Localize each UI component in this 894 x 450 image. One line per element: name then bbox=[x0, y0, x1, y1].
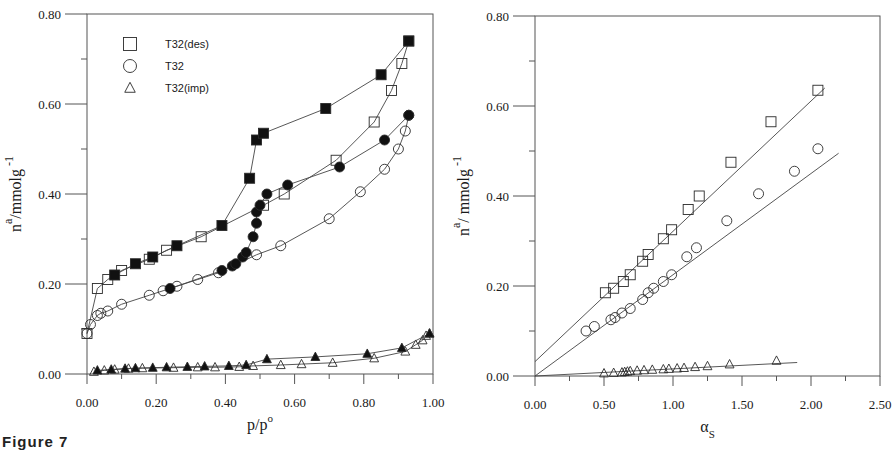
circle-marker bbox=[193, 275, 203, 285]
fit-line bbox=[535, 153, 839, 376]
x-tick-label: 2.50 bbox=[869, 397, 892, 412]
triangle-marker bbox=[148, 363, 157, 371]
x-tick-label: 1.00 bbox=[662, 397, 685, 412]
legend-label: T32 bbox=[165, 60, 184, 72]
data-series bbox=[82, 110, 414, 338]
circle-marker bbox=[85, 320, 95, 330]
square-marker bbox=[625, 270, 635, 280]
triangle-marker bbox=[183, 362, 192, 370]
square-marker bbox=[258, 128, 268, 138]
legend-label: T32(des) bbox=[165, 38, 209, 50]
y-tick-label: 0.60 bbox=[486, 99, 509, 114]
y-tick-label: 0.20 bbox=[38, 277, 61, 292]
circle-marker bbox=[649, 283, 659, 293]
circle-marker bbox=[103, 306, 113, 316]
circle-marker bbox=[165, 284, 175, 294]
square-marker bbox=[376, 70, 386, 80]
circle-marker bbox=[241, 248, 251, 258]
y-tick-label: 0.40 bbox=[38, 187, 61, 202]
circle-marker bbox=[813, 144, 823, 154]
figure-caption: Figure 7 bbox=[2, 433, 68, 450]
data-series bbox=[82, 36, 414, 339]
square-marker bbox=[130, 259, 140, 269]
circle-marker bbox=[252, 218, 262, 228]
fit-line bbox=[535, 88, 825, 362]
square-marker bbox=[148, 252, 158, 262]
x-tick-label: 2.00 bbox=[800, 397, 823, 412]
triangle-marker bbox=[640, 365, 649, 373]
square-marker bbox=[766, 117, 776, 127]
circle-marker bbox=[276, 241, 286, 251]
series-line bbox=[87, 115, 409, 333]
triangle-marker bbox=[691, 362, 700, 370]
triangle-marker bbox=[648, 365, 657, 373]
triangle-marker bbox=[125, 82, 136, 92]
triangle-marker bbox=[772, 356, 781, 364]
data-series bbox=[600, 85, 823, 298]
square-marker bbox=[726, 157, 736, 167]
x-tick-label: 0.60 bbox=[283, 395, 306, 410]
square-marker bbox=[386, 86, 396, 96]
x-tick-label: 0.20 bbox=[145, 395, 168, 410]
square-marker bbox=[658, 234, 668, 244]
y-tick-label: 0.60 bbox=[38, 97, 61, 112]
circle-marker bbox=[691, 243, 701, 253]
legend-label: T32(imp) bbox=[165, 82, 209, 94]
triangle-marker bbox=[131, 363, 140, 371]
square-marker bbox=[643, 250, 653, 260]
data-series bbox=[165, 110, 414, 293]
square-marker bbox=[279, 189, 289, 199]
circle-marker bbox=[789, 166, 799, 176]
circle-marker bbox=[393, 144, 403, 154]
x-tick-label: 1.00 bbox=[422, 395, 445, 410]
data-series bbox=[600, 356, 781, 377]
circle-marker bbox=[335, 162, 345, 172]
circle-marker bbox=[380, 164, 390, 174]
square-marker bbox=[321, 104, 331, 114]
circle-marker bbox=[252, 250, 262, 260]
circle-marker bbox=[144, 290, 154, 300]
triangle-marker bbox=[703, 361, 712, 369]
y-tick-label: 0.20 bbox=[486, 279, 509, 294]
plot-frame bbox=[535, 16, 880, 376]
square-marker bbox=[397, 59, 407, 69]
circle-marker bbox=[324, 214, 334, 224]
triangle-marker bbox=[276, 360, 285, 368]
circle-marker bbox=[722, 216, 732, 226]
x-tick-label: 0.40 bbox=[214, 395, 237, 410]
right-alpha-s-plot: 0.000.200.400.600.800.000.501.001.502.00… bbox=[449, 9, 891, 440]
x-axis-label: αS bbox=[700, 418, 715, 440]
x-tick-label: 0.00 bbox=[76, 395, 99, 410]
x-tick-label: 1.50 bbox=[731, 397, 754, 412]
circle-marker bbox=[754, 189, 764, 199]
circle-marker bbox=[217, 266, 227, 276]
data-series bbox=[110, 36, 414, 280]
circle-marker bbox=[658, 277, 668, 287]
triangle-marker bbox=[200, 362, 209, 370]
legend: T32(des)T32T32(imp) bbox=[124, 38, 210, 95]
x-axis-label-sup: o bbox=[267, 412, 273, 424]
circle-marker bbox=[400, 126, 410, 136]
square-marker bbox=[813, 85, 823, 95]
y-tick-label: 0.80 bbox=[486, 9, 509, 24]
square-marker bbox=[92, 284, 102, 294]
triangle-marker bbox=[297, 359, 306, 367]
data-series bbox=[581, 144, 823, 336]
square-marker bbox=[369, 117, 379, 127]
square-marker bbox=[124, 38, 137, 51]
circle-marker bbox=[248, 232, 258, 242]
triangle-marker bbox=[162, 362, 171, 370]
circle-marker bbox=[355, 187, 365, 197]
x-tick-label: 0.80 bbox=[352, 395, 375, 410]
square-marker bbox=[667, 225, 677, 235]
circle-marker bbox=[283, 180, 293, 190]
y-tick-label: 0.00 bbox=[486, 369, 509, 384]
x-tick-label: 0.50 bbox=[593, 397, 616, 412]
y-axis-label: na/mmolg -1 bbox=[1, 156, 25, 232]
square-marker bbox=[172, 241, 182, 251]
series-line bbox=[170, 115, 409, 288]
y-axis-label: na/ mmolg -1 bbox=[449, 156, 473, 236]
triangle-marker bbox=[263, 354, 272, 362]
circle-marker bbox=[667, 270, 677, 280]
circle-marker bbox=[682, 252, 692, 262]
